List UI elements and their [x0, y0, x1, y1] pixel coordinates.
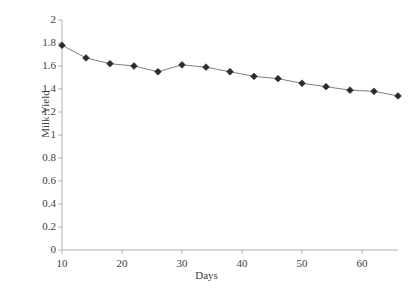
y-axis-tick-label: 0.2	[16, 221, 56, 232]
y-axis-tick-label: 0.4	[16, 198, 56, 209]
y-axis-tick-label: 1.6	[16, 60, 56, 71]
x-axis-tick-label: 30	[162, 258, 202, 269]
x-axis-tick-label: 60	[342, 258, 382, 269]
y-axis-tick-label: 1	[16, 129, 56, 140]
y-axis-tick-label: 1.8	[16, 37, 56, 48]
x-axis-tick-label: 40	[222, 258, 262, 269]
x-axis-tick-label: 10	[42, 258, 82, 269]
plot-area	[0, 0, 413, 294]
y-axis-tick-label: 1.4	[16, 83, 56, 94]
x-axis-tick-label: 20	[102, 258, 142, 269]
y-axis-tick-label: 0.8	[16, 152, 56, 163]
y-axis-tick-label: 1.2	[16, 106, 56, 117]
line-chart: Milk Yield Days 00.20.40.60.811.21.41.61…	[0, 0, 413, 294]
y-axis-tick-label: 0	[16, 244, 56, 255]
x-axis-title: Days	[0, 270, 413, 281]
y-axis-tick-label: 2	[16, 14, 56, 25]
y-axis-tick-label: 0.6	[16, 175, 56, 186]
x-axis-tick-label: 50	[282, 258, 322, 269]
